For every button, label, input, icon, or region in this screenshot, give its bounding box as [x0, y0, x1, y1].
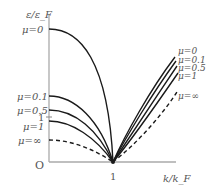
y-axis-label: ε/ε_F — [26, 9, 53, 21]
curve-mu-0-5-right — [113, 66, 177, 162]
left-label-mu-0-1: μ=0.1 — [17, 91, 48, 102]
left-label-mu-1: μ=1 — [23, 121, 44, 132]
convergence-point — [111, 160, 115, 164]
curve-mu-0-left — [49, 29, 113, 162]
x-axis-label: k/k_F — [163, 173, 191, 185]
dispersion-chart: ε/ε_F k/k_F O 1 1 μ=0 μ=0.1 μ=0.5 μ=1 μ=… — [0, 0, 216, 191]
right-label-mu-inf: μ=∞ — [178, 91, 199, 101]
right-label-mu-1: μ=1 — [178, 71, 197, 81]
curve-mu-0-1-left — [49, 96, 113, 162]
x-tick-label: 1 — [110, 171, 116, 182]
curve-mu-0-5-left — [49, 110, 113, 162]
left-label-mu-0: μ=0 — [22, 24, 44, 35]
origin-label: O — [35, 159, 44, 172]
left-label-mu-0-5: μ=0.5 — [17, 105, 48, 116]
left-label-mu-inf: μ=∞ — [18, 135, 41, 146]
curve-mu-1-right — [113, 73, 178, 162]
